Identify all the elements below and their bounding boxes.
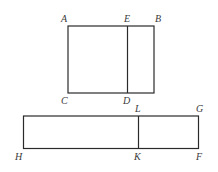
geometry-diagram: A E B C D L G H K F xyxy=(0,0,218,172)
label-k: K xyxy=(133,151,142,162)
label-l: L xyxy=(134,103,141,114)
label-c: C xyxy=(61,95,68,106)
label-b: B xyxy=(155,13,161,24)
label-f: F xyxy=(195,151,203,162)
bottom-rectangle: L G H K F xyxy=(14,103,203,162)
label-e: E xyxy=(123,13,130,24)
label-d: D xyxy=(122,95,131,106)
top-rectangle: A E B C D xyxy=(60,13,161,106)
label-h: H xyxy=(14,151,23,162)
rectangle-abdc xyxy=(68,26,154,93)
label-a: A xyxy=(60,13,68,24)
rectangle-hgf xyxy=(24,116,199,149)
label-g: G xyxy=(196,103,203,114)
